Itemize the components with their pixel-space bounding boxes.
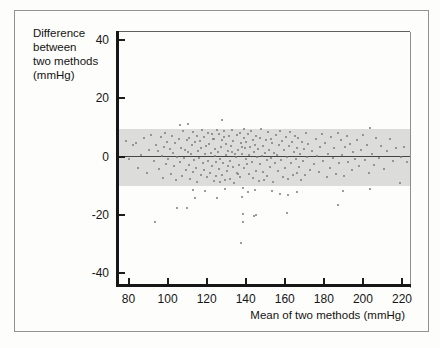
data-point — [276, 154, 278, 156]
y-tick-mark — [119, 214, 125, 216]
y-axis-title-line: (mmHg) — [33, 68, 98, 82]
data-point — [264, 152, 266, 154]
data-point — [198, 157, 200, 159]
data-point — [254, 144, 256, 146]
data-point — [286, 156, 288, 158]
data-point — [293, 151, 295, 153]
data-point — [279, 193, 281, 195]
data-point — [337, 132, 339, 134]
x-tick-label: 160 — [265, 292, 305, 306]
data-point — [243, 128, 245, 130]
data-point — [242, 213, 244, 215]
data-point — [217, 151, 219, 153]
data-point — [263, 179, 265, 181]
data-point — [192, 171, 194, 173]
top-spine — [119, 31, 410, 32]
y-tick-label: 0 — [64, 150, 109, 164]
data-point — [246, 163, 248, 165]
data-point — [338, 162, 340, 164]
data-point — [286, 212, 288, 214]
data-point — [210, 152, 212, 154]
data-point — [239, 132, 241, 134]
y-axis-title-line: two methods — [33, 54, 98, 68]
x-tick-mark — [245, 278, 247, 284]
data-point — [200, 174, 202, 176]
data-point — [229, 160, 231, 162]
data-point — [356, 139, 358, 141]
x-tick-label: 220 — [382, 292, 422, 306]
data-point — [163, 146, 165, 148]
data-point — [153, 160, 155, 162]
x-tick-mark — [128, 278, 130, 284]
data-point — [204, 190, 206, 192]
data-point — [195, 167, 197, 169]
data-point — [358, 165, 360, 167]
data-point — [192, 189, 194, 191]
data-point — [271, 142, 273, 144]
data-point — [247, 191, 249, 193]
data-point — [327, 153, 329, 155]
data-point — [199, 140, 201, 142]
data-point — [369, 188, 371, 190]
data-point — [296, 172, 298, 174]
data-point — [224, 188, 226, 190]
data-point — [241, 196, 243, 198]
data-point — [182, 130, 184, 132]
data-point — [343, 175, 345, 177]
data-point — [316, 155, 318, 157]
data-point — [181, 175, 183, 177]
data-point — [346, 135, 348, 137]
data-point — [170, 173, 172, 175]
data-point — [351, 169, 353, 171]
data-point — [335, 173, 337, 175]
data-point — [373, 164, 375, 166]
bland-altman-figure: Difference between two methods (mmHg) 40… — [0, 0, 440, 348]
right-spine — [410, 32, 411, 288]
x-axis-title: Mean of two methods (mmHg) — [250, 309, 405, 321]
x-tick-label: 140 — [226, 292, 266, 306]
data-point — [349, 143, 351, 145]
data-point — [232, 166, 234, 168]
x-tick-label: 180 — [304, 292, 344, 306]
data-point — [275, 134, 277, 136]
x-tick-label: 100 — [148, 292, 188, 306]
data-point — [292, 174, 294, 176]
data-point — [234, 153, 236, 155]
data-point — [255, 214, 257, 216]
data-point — [183, 157, 185, 159]
data-point — [180, 147, 182, 149]
x-tick-mark — [362, 278, 364, 284]
y-axis-line — [116, 31, 119, 287]
x-tick-mark — [167, 278, 169, 284]
data-point — [254, 189, 256, 191]
data-point — [236, 134, 238, 136]
x-tick-mark — [284, 278, 286, 284]
data-point — [186, 207, 188, 209]
x-tick-label: 120 — [187, 292, 227, 306]
data-point — [403, 146, 405, 148]
data-point — [161, 155, 163, 157]
data-point — [368, 172, 370, 174]
data-point — [140, 154, 142, 156]
data-point — [184, 149, 186, 151]
data-point — [237, 149, 239, 151]
y-tick-mark — [119, 39, 125, 41]
data-point — [176, 207, 178, 209]
data-point — [294, 135, 296, 137]
data-point — [207, 132, 209, 134]
x-tick-label: 80 — [109, 292, 149, 306]
data-point — [154, 221, 156, 223]
data-point — [282, 176, 284, 178]
x-tick-mark — [401, 278, 403, 284]
data-point — [137, 167, 139, 169]
data-point — [342, 190, 344, 192]
data-point — [251, 161, 253, 163]
data-point — [171, 135, 173, 137]
data-point — [169, 148, 171, 150]
data-point — [196, 135, 198, 137]
data-point — [202, 162, 204, 164]
y-tick-label: -40 — [64, 266, 109, 280]
data-point — [160, 136, 162, 138]
data-point — [216, 129, 218, 131]
data-point — [329, 167, 331, 169]
